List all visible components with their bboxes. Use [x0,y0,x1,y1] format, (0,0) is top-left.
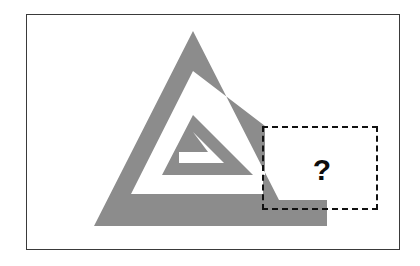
answer-box[interactable]: ? [262,126,378,210]
puzzle-root: ? [0,0,420,266]
question-mark-label: ? [264,128,380,212]
